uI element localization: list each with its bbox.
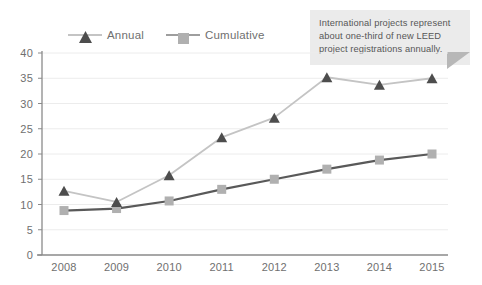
series-annual-markers [59,72,438,207]
x-tick-label: 2013 [314,261,339,273]
x-tick-label: 2014 [367,261,392,273]
y-tick-label: 10 [20,199,33,211]
y-tick-label: 0 [27,249,33,261]
square-marker-icon [270,175,279,184]
y-tick-label: 30 [20,98,33,110]
x-tick-label: 2012 [262,261,287,273]
y-tick-labels: 0510152025303540 [20,47,42,261]
line-chart-plot: 0510152025303540 20082009201020112012201… [0,0,482,285]
square-marker-icon [60,206,69,215]
square-marker-icon [322,165,331,174]
y-tick-label: 25 [20,123,33,135]
x-tick-label: 2011 [209,261,233,273]
y-tick-label: 5 [27,224,33,236]
grid-lines [42,53,448,230]
x-tick-label: 2010 [157,261,182,273]
square-marker-icon [375,156,384,165]
y-tick-label: 35 [20,72,33,84]
square-marker-icon [428,150,437,159]
square-marker-icon [217,185,226,194]
y-tick-label: 15 [20,173,33,185]
triangle-marker-icon [216,132,227,142]
y-tick-label: 20 [20,148,33,160]
x-tick-label: 2009 [104,261,129,273]
x-tick-label: 2015 [419,261,444,273]
square-marker-icon [165,196,174,205]
y-tick-label: 40 [20,47,33,59]
x-tick-labels: 20082009201020112012201320142015 [51,261,444,273]
chart-screenshot: Annual Cumulative International projects… [0,0,482,285]
x-tick-label: 2008 [51,261,76,273]
